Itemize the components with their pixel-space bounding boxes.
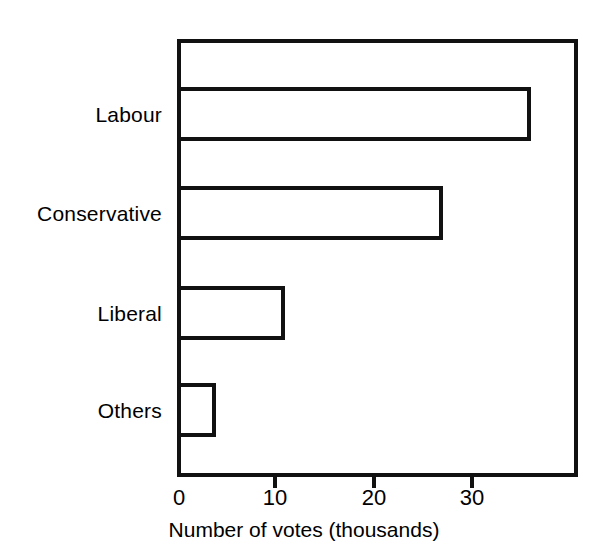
xtick-label-0: 0 bbox=[173, 487, 185, 509]
x-axis-title: Number of votes (thousands) bbox=[0, 519, 608, 540]
bar-labour bbox=[177, 87, 531, 141]
bar-others bbox=[177, 383, 216, 437]
bar-liberal bbox=[177, 286, 285, 340]
xtick-label-10: 10 bbox=[263, 487, 287, 509]
category-label-labour: Labour bbox=[95, 104, 162, 125]
bar-chart: Labour Conservative Liberal Others 0 10 … bbox=[0, 0, 608, 556]
category-label-liberal: Liberal bbox=[98, 303, 162, 324]
category-label-others: Others bbox=[98, 400, 162, 421]
xtick-label-20: 20 bbox=[362, 487, 386, 509]
bar-conservative bbox=[177, 186, 443, 240]
category-label-conservative: Conservative bbox=[37, 203, 162, 224]
xtick-label-30: 30 bbox=[460, 487, 484, 509]
